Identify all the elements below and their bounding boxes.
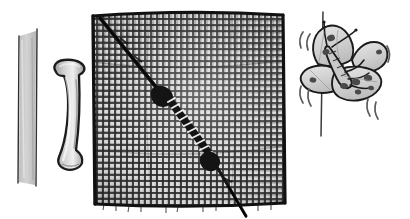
spline-strip — [18, 29, 37, 186]
illustration-canvas: Window screen repair with mesh, spline a… — [0, 0, 410, 219]
illustration-svg — [0, 0, 410, 219]
mesh-edge-right — [283, 15, 285, 203]
mesh-edge-left — [93, 16, 95, 204]
